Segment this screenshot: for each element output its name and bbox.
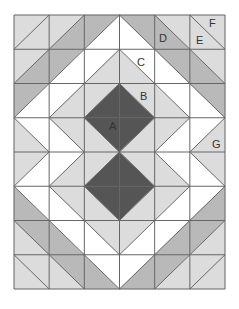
label-g: G <box>212 138 221 150</box>
label-e: E <box>196 34 203 46</box>
quilt-diagram: A B C D E F G <box>0 0 239 309</box>
label-d: D <box>159 32 167 44</box>
label-f: F <box>209 17 216 29</box>
label-b: B <box>140 90 147 102</box>
label-c: C <box>137 56 145 68</box>
label-a: A <box>109 120 117 132</box>
